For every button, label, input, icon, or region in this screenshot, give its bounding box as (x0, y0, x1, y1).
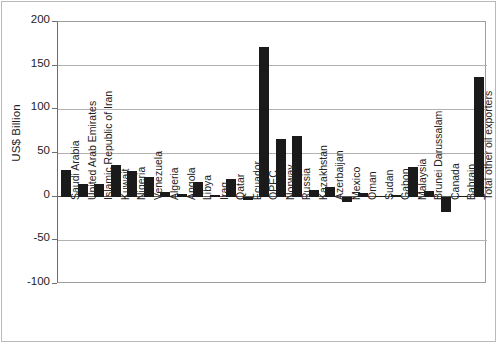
x-tick-label: Islamic Republic of Iran (102, 91, 114, 200)
gridline-100 (58, 109, 487, 110)
x-tick-label: Kazakhstan (317, 145, 329, 200)
x-tick-label: Iraq (218, 182, 230, 200)
chart-figure: US$ Billion 200150100500-50-100 Saudi Ar… (0, 0, 498, 344)
x-tick-label: Brunei Darussalam (432, 110, 444, 199)
y-tick-label: 150 (0, 57, 50, 69)
x-tick-label: Ecuador (251, 161, 263, 200)
x-tick-label: Venezuela (152, 151, 164, 200)
x-tick-label: Qatar (234, 173, 246, 199)
x-tick-label: Oman (366, 171, 378, 200)
x-tick-label: Azerbaijan (333, 150, 345, 200)
gridline-50 (58, 153, 487, 154)
x-tick-label: Nigeria (135, 166, 147, 199)
x-tick-label: United Arab Emirates (86, 100, 98, 199)
x-tick-label: Mexico (350, 166, 362, 199)
plot-area (57, 21, 486, 283)
x-tick-label: Malaysia (416, 158, 428, 199)
y-tick-label: 50 (0, 144, 50, 156)
x-tick-label: Bahrain (465, 163, 477, 199)
y-tick-label: -100 (0, 275, 50, 287)
x-tick-label: Libya (201, 175, 213, 200)
x-tick-label: Canada (449, 163, 461, 200)
x-tick-label: OPEC (267, 170, 279, 200)
y-tick-mark (52, 283, 57, 284)
x-tick-label: Norway (284, 164, 296, 200)
x-tick-label: Gabon (399, 168, 411, 200)
y-tick-label: 100 (0, 100, 50, 112)
x-tick-label: Russia (300, 168, 312, 200)
y-axis-title: US$ Billion (10, 73, 28, 193)
y-tick-label: 200 (0, 13, 50, 25)
x-tick-label: Angola (185, 167, 197, 200)
x-tick-label: Sudan (383, 169, 395, 199)
gridline-150 (58, 65, 487, 66)
x-tick-label: Saudi Arabia (69, 140, 81, 200)
x-tick-label: Total other oil exporters (482, 91, 494, 200)
x-tick-label: Kuwait (119, 168, 131, 200)
gridline--50 (58, 240, 487, 241)
y-tick-label: -50 (0, 231, 50, 243)
x-tick-label: Algeria (168, 167, 180, 200)
y-tick-label: 0 (0, 188, 50, 200)
